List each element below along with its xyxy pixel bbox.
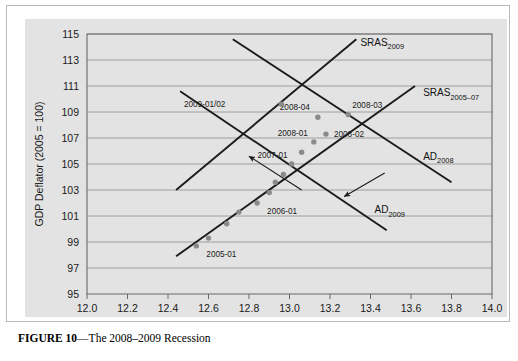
caption-dash: —: [77, 332, 89, 344]
x-tick-label: 13.6: [401, 302, 422, 314]
data-point: [279, 102, 284, 107]
y-tick-label: 109: [61, 106, 79, 118]
recession-scatter-chart: 95979910110310510710911111311512.012.212…: [25, 19, 507, 317]
caption-text: The 2008–2009 Recession: [89, 332, 211, 344]
y-tick-label: 97: [67, 262, 79, 274]
y-tick-label: 111: [63, 80, 79, 92]
data-point-label: 2008-03: [352, 101, 382, 110]
data-point: [254, 200, 259, 205]
data-point-label: 2008-02: [334, 130, 364, 139]
x-tick-label: 13.4: [360, 302, 381, 314]
figure-frame: 95979910110310510710911111311512.012.212…: [6, 5, 510, 322]
chart-panel: 95979910110310510710911111311512.012.212…: [25, 19, 507, 317]
plot-area: 95979910110310510710911111311512.012.212…: [25, 19, 507, 317]
data-point: [315, 115, 320, 120]
y-tick-label: 107: [61, 132, 79, 144]
caption-label: FIGURE 10: [18, 332, 77, 344]
data-point: [281, 172, 286, 177]
x-tick-label: 13.8: [441, 302, 462, 314]
figure-page: 95979910110310510710911111311512.012.212…: [0, 0, 518, 361]
curve-label-AD_2008: AD2008: [423, 151, 453, 165]
x-tick-label: 12.6: [198, 302, 219, 314]
y-tick-label: 113: [62, 54, 79, 66]
x-tick-label: 12.0: [77, 302, 98, 314]
data-point: [299, 150, 304, 155]
data-point-label: 2008-01: [278, 129, 308, 138]
data-point-label: 2006-01: [267, 207, 297, 216]
figure-caption: FIGURE 10—The 2008–2009 Recession: [18, 332, 488, 344]
x-tick-label: 13.2: [320, 302, 341, 314]
data-point: [236, 209, 241, 214]
curve-label-subscript-SRAS_2005-07: 2005–07: [450, 93, 479, 102]
data-point-label: 2007-01: [257, 151, 287, 160]
data-point: [346, 112, 351, 117]
data-point: [311, 139, 316, 144]
data-point-label: 2005-01: [206, 250, 236, 259]
x-tick-label: 13.0: [279, 302, 300, 314]
curve-label-subscript-AD_2008: 2008: [437, 156, 453, 165]
data-point: [289, 161, 294, 166]
data-point: [267, 190, 272, 195]
x-tick-label: 12.8: [239, 302, 260, 314]
curve-label-subscript-AD_2009: 2009: [388, 210, 404, 219]
curve-label-AD_2009: AD2009: [375, 204, 405, 218]
curve-label-SRAS_2009: SRAS2009: [360, 37, 404, 51]
data-point: [224, 221, 229, 226]
data-point-label: 2009-01/02: [184, 100, 226, 109]
y-tick-label: 99: [67, 236, 79, 248]
x-tick-label: 12.2: [117, 302, 138, 314]
curve-label-subscript-SRAS_2009: 2009: [388, 42, 404, 51]
curve-AD_2008: [233, 39, 452, 182]
y-tick-label: 115: [62, 28, 79, 40]
y-tick-label: 105: [61, 158, 79, 170]
data-point-label: 2008-04: [280, 103, 310, 112]
curve-label-SRAS_2005-07: SRAS2005–07: [423, 87, 479, 101]
data-point: [194, 243, 199, 248]
y-axis-title: GDP Deflator (2005 = 100): [33, 101, 45, 226]
ad-shift-arrow: [344, 173, 385, 196]
y-tick-label: 101: [61, 210, 79, 222]
data-point: [323, 131, 328, 136]
x-tick-label: 12.4: [158, 302, 179, 314]
data-point: [273, 180, 278, 185]
data-point: [206, 235, 211, 240]
x-tick-label: 14.0: [482, 302, 503, 314]
y-tick-label: 95: [67, 288, 79, 300]
y-tick-label: 103: [61, 184, 79, 196]
